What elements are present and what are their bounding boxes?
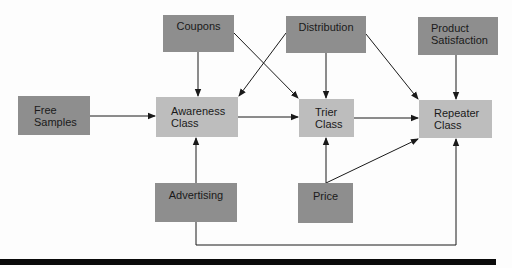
- node-label: Awareness Class: [171, 105, 225, 129]
- node-label: Price: [313, 190, 338, 202]
- node-label: Repeater Class: [434, 107, 479, 131]
- bottom-rule-divider: [0, 259, 496, 265]
- edge-distribution-repeater: [366, 34, 418, 99]
- node-label: Free Samples: [34, 104, 77, 128]
- node-label: Coupons: [176, 20, 220, 32]
- node-coupons: Coupons: [163, 15, 234, 52]
- node-distribution: Distribution: [286, 16, 366, 53]
- node-trier-class: Trier Class: [299, 99, 354, 137]
- node-free-samples: Free Samples: [18, 96, 90, 135]
- edge-distribution-awareness: [239, 33, 286, 96]
- edge-price-repeater: [326, 139, 418, 183]
- node-label: Distribution: [298, 21, 353, 33]
- node-product-satisfaction: Product Satisfaction: [418, 17, 498, 55]
- node-advertising: Advertising: [155, 183, 237, 222]
- node-repeater-class: Repeater Class: [419, 100, 492, 138]
- marketing-flow-diagram: Coupons Distribution Product Satisfactio…: [0, 0, 512, 268]
- node-label: Trier Class: [315, 106, 343, 130]
- node-awareness-class: Awareness Class: [156, 97, 238, 137]
- node-label: Advertising: [169, 189, 223, 201]
- node-label: Product Satisfaction: [431, 22, 488, 46]
- node-price: Price: [298, 183, 353, 223]
